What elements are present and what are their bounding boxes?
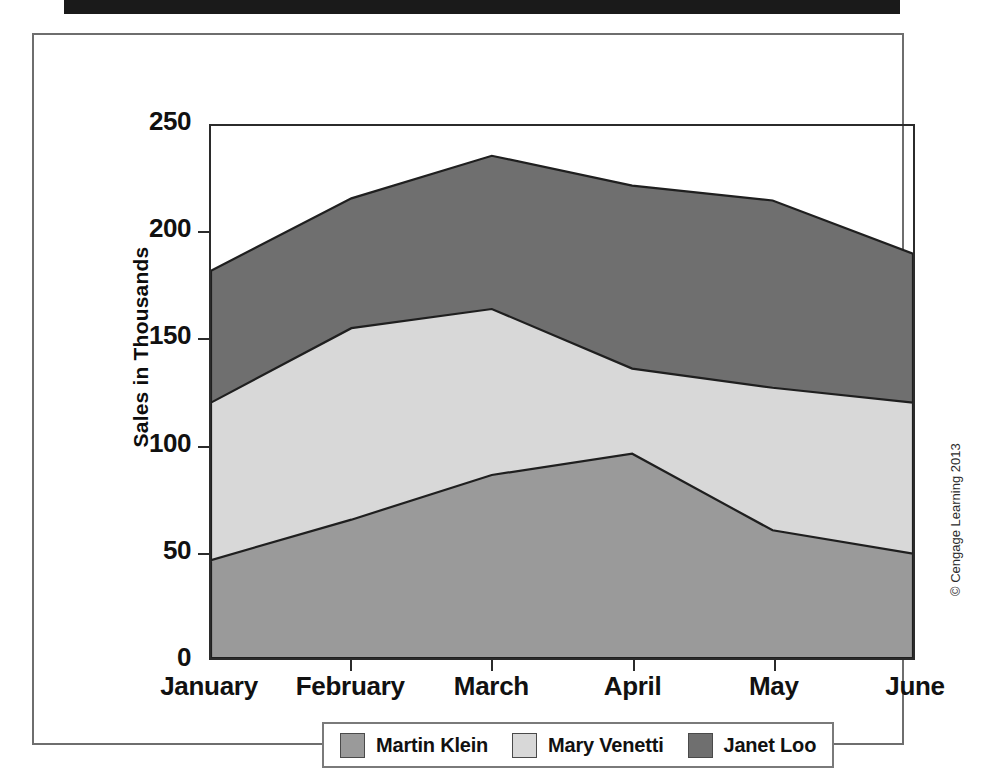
chart-legend: Martin KleinMary VenettiJanet Loo [322,722,834,768]
y-axis-tick-mark [198,446,210,448]
x-axis-tick-label: June [830,671,998,702]
legend-swatch-icon [688,733,713,758]
y-axis-tick-label: 0 [129,642,191,673]
x-axis-tick-mark [774,660,776,671]
y-axis-tick-mark [198,231,210,233]
copyright-notice: © Cengage Learning 2013 [948,376,963,596]
legend-swatch-icon [512,733,537,758]
y-axis-tick-label: 50 [129,535,191,566]
legend-item: Mary Venetti [512,733,663,758]
area-chart-svg [211,126,913,658]
plot-area [209,124,915,660]
legend-label: Janet Loo [724,734,817,757]
y-axis-tick-mark [198,338,210,340]
plot-area-wrapper [209,124,915,660]
y-axis-tick-mark [198,553,210,555]
legend-swatch-icon [340,733,365,758]
scan-artifact-bar [64,0,900,14]
legend-item: Martin Klein [340,733,488,758]
legend-label: Martin Klein [376,734,488,757]
legend-item: Janet Loo [688,733,817,758]
x-axis-tick-mark [491,660,493,671]
y-axis-tick-label: 250 [129,106,191,137]
legend-label: Mary Venetti [548,734,663,757]
figure-frame: Sales in Thousands Martin KleinMary Vene… [32,33,904,745]
y-axis-tick-label: 100 [129,428,191,459]
y-axis-tick-label: 150 [129,320,191,351]
x-axis-tick-mark [633,660,635,671]
y-axis-tick-label: 200 [129,213,191,244]
x-axis-tick-mark [350,660,352,671]
